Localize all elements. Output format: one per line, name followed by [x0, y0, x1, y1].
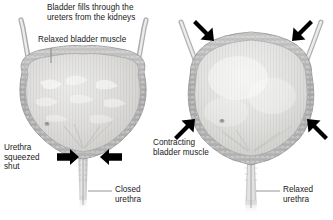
label-bladder-fills-line2: ureters from the kidneys [47, 13, 135, 22]
label-contracting-bladder-muscle: Contracting bladder muscle [153, 138, 209, 157]
label-urethra-squeezed-line1: Urethra [4, 143, 31, 152]
label-urethra-squeezed-line2: squeezed [4, 153, 40, 162]
label-relaxed-bladder-muscle: Relaxed bladder muscle [38, 35, 126, 45]
label-closed-urethra-line1: Closed [115, 185, 141, 194]
label-relaxed-urethra: Relaxed urethra [283, 185, 313, 204]
label-relaxed-urethra-line2: urethra [283, 195, 309, 204]
label-relaxed-urethra-line1: Relaxed [283, 185, 313, 194]
label-bladder-fills: Bladder fills through the ureters from t… [47, 3, 135, 22]
label-urethra-squeezed-line3: shut [4, 162, 20, 171]
label-closed-urethra-line2: urethra [115, 195, 141, 204]
label-bladder-fills-line1: Bladder fills through the [47, 3, 134, 12]
label-closed-urethra: Closed urethra [115, 185, 141, 204]
label-contracting-line2: bladder muscle [153, 148, 209, 157]
label-urethra-squeezed-shut: Urethra squeezed shut [4, 143, 40, 172]
label-contracting-line1: Contracting [153, 138, 195, 147]
